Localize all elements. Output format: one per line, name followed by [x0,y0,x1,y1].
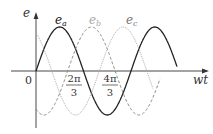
svg-text:3: 3 [107,87,113,98]
tick-label-4pi-3: 4π 3 [102,73,118,98]
three-phase-waveform-diagram: e wt 0 2π 3 4π 3 ea eb ec [0,0,213,134]
y-axis-arrow-icon [34,12,39,19]
legend-label-ea: ea [55,13,67,28]
origin-label: 0 [25,74,32,87]
y-axis-label: e [23,6,30,20]
svg-text:2π: 2π [68,73,81,84]
tick-label-2pi-3: 2π 3 [66,73,82,98]
legend-label-ec: ec [126,13,138,28]
legend-label-eb: eb [89,13,101,28]
svg-text:3: 3 [71,87,77,98]
svg-text:4π: 4π [104,73,117,84]
x-axis-label: wt [193,73,208,87]
